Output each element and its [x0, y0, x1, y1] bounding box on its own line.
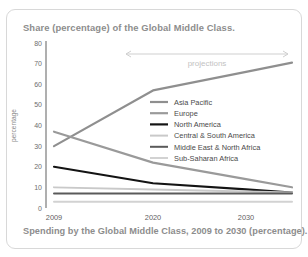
x-tick-label: 2020	[145, 213, 161, 222]
y-tick-label: 40	[34, 122, 42, 129]
legend-label-europe: Europe	[174, 109, 198, 118]
y-axis-tick-labels: 01020304050607080	[34, 40, 42, 212]
series-lines	[54, 63, 292, 202]
x-tick-label: 2030	[238, 213, 254, 222]
projections-annotation: projections	[126, 51, 288, 68]
legend-label-middle-east-north-africa: Middle East & North Africa	[174, 143, 261, 152]
y-tick-label: 0	[38, 205, 42, 212]
x-tick-label: 2009	[46, 213, 62, 222]
y-tick-label: 70	[34, 60, 42, 67]
line-chart: 01020304050607080 percentage 20092020203…	[0, 0, 308, 257]
y-tick-label: 50	[34, 101, 42, 108]
y-tick-label: 30	[34, 143, 42, 150]
y-tick-label: 80	[34, 40, 42, 47]
series-line-asia-pacific	[54, 63, 292, 146]
legend-label-asia-pacific: Asia Pacific	[174, 98, 213, 107]
y-axis-label: percentage	[10, 109, 18, 142]
y-tick-label: 10	[34, 184, 42, 191]
legend-label-central-south-america: Central & South America	[174, 131, 256, 140]
chart-legend: Asia PacificEuropeNorth AmericaCentral &…	[150, 98, 261, 163]
y-tick-label: 60	[34, 81, 42, 88]
x-axis-tick-labels: 200920202030	[46, 213, 254, 222]
y-tick-label: 20	[34, 163, 42, 170]
series-line-europe	[54, 132, 292, 188]
legend-label-north-america: North America	[174, 120, 222, 129]
y-axis-title: percentage	[10, 109, 18, 142]
projections-label: projections	[188, 59, 227, 68]
legend-label-sub-saharan-africa: Sub-Saharan Africa	[174, 154, 239, 163]
chart-plot-area: 01020304050607080 percentage 20092020203…	[0, 0, 308, 257]
